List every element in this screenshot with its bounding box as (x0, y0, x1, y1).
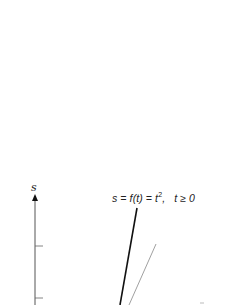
equation-label: s = f(t) = t2, t ≥ 0 (112, 191, 195, 204)
figure: s s = f(t) = t2, t ≥ 0 (0, 0, 228, 305)
equation-lhs: s = f(t) = t (112, 192, 158, 204)
secant-line (129, 244, 156, 305)
axis-arrow-icon (32, 194, 38, 201)
axis-label-s: s (31, 181, 37, 194)
equation-condition: , t ≥ 0 (162, 192, 195, 204)
figure-canvas (0, 0, 228, 305)
curve-line (120, 208, 137, 305)
